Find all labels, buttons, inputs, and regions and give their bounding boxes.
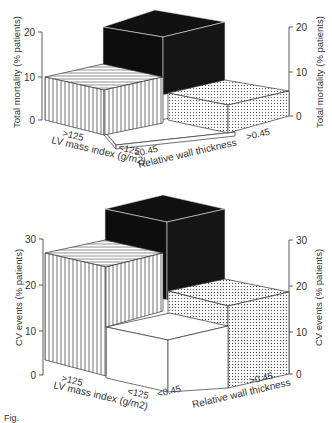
bottom-right-tick-30: 30 — [296, 235, 308, 246]
top-left-axis — [38, 32, 42, 120]
top-right-axis — [289, 27, 293, 116]
bottom-left-tick-10: 10 — [25, 326, 37, 337]
bottom-right-tick-10: 10 — [296, 327, 308, 338]
bottom-left-axis-label: CV events (% patients) — [13, 249, 24, 346]
bottom-chart: 30 20 10 0 CV events (% patients) 30 20 … — [13, 195, 324, 412]
bottom-right-axis — [289, 240, 293, 374]
top-right-tick-20: 20 — [296, 22, 308, 33]
bottom-right-tick-0: 0 — [296, 369, 302, 380]
top-left-tick-10: 10 — [24, 72, 36, 83]
top-left-tick-20: 20 — [24, 27, 36, 38]
bottom-right-tick-20: 20 — [296, 281, 308, 292]
bottom-right-axis-label: CV events (% patients) — [313, 249, 324, 346]
caption-fragment: Fig. — [4, 413, 19, 423]
top-bar-lvh-low-rwt — [45, 64, 163, 135]
bottom-left-tick-20: 20 — [25, 280, 37, 291]
top-right-tick-10: 10 — [296, 67, 308, 78]
bottom-bar-normal-mass-low-rwt — [106, 313, 228, 392]
top-left-tick-0: 0 — [29, 115, 35, 126]
top-right-tick-0: 0 — [296, 111, 302, 122]
top-y-cat-high: >0.45 — [245, 126, 271, 142]
bottom-left-tick-0: 0 — [30, 370, 36, 381]
top-right-axis-label: Total mortality (% patients) — [314, 16, 325, 128]
figure-canvas: 20 10 0 Total mortality (% patients) 20 … — [0, 0, 332, 423]
bottom-left-tick-30: 30 — [25, 234, 37, 245]
top-chart: 20 10 0 Total mortality (% patients) 20 … — [11, 10, 325, 170]
bottom-left-axis — [39, 239, 43, 375]
top-left-axis-label: Total mortality (% patients) — [11, 16, 22, 128]
